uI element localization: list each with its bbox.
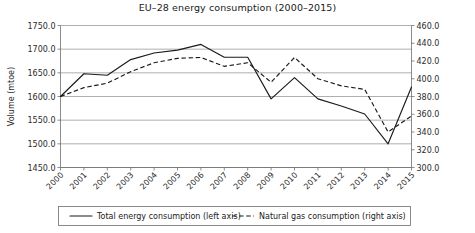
y-axis-left: 1450.01500.01550.01600.01650.01700.01750…: [28, 22, 61, 173]
y-axis-right-tick-label: 460.0: [417, 22, 440, 31]
y-axis-left-tick-label: 1600.0: [28, 93, 56, 102]
x-axis-tick-label: 2007: [208, 171, 229, 192]
x-axis-tick-label: 2009: [255, 171, 276, 192]
gridlines: [61, 26, 412, 168]
x-axis-tick-label: 2000: [45, 171, 66, 192]
y-axis-right-tick-label: 400.0: [417, 75, 440, 84]
series-line-2: [61, 57, 412, 132]
x-axis-tick-label: 2008: [232, 171, 253, 192]
x-axis-tick-label: 2004: [138, 171, 159, 192]
x-axis-tick-label: 2010: [279, 171, 300, 192]
chart-legend: Total energy consumption (left axis)Natu…: [59, 207, 411, 226]
data-series: [61, 44, 412, 143]
x-axis-tick-label: 2015: [396, 171, 417, 192]
chart-plot-area: 1450.01500.01550.01600.01650.01700.01750…: [0, 0, 475, 233]
y-axis-right: 300.0320.0340.0360.0380.0400.0420.0440.0…: [412, 22, 440, 173]
y-axis-right-tick-label: 340.0: [417, 128, 440, 137]
y-axis-left-tick-label: 1750.0: [28, 22, 56, 31]
y-axis-left-tick-label: 1650.0: [28, 69, 56, 78]
x-axis-tick-label: 2002: [91, 171, 112, 192]
y-axis-title-label: Volume (mtoe): [7, 67, 16, 126]
chart-container: EU–28 energy consumption (2000–2015) 145…: [0, 0, 475, 233]
y-axis-right-tick-label: 360.0: [417, 110, 440, 119]
y-axis-left-tick-label: 1450.0: [28, 164, 56, 173]
x-axis-tick-label: 2013: [349, 171, 370, 192]
y-axis-left-tick-label: 1700.0: [28, 45, 56, 54]
x-axis-tick-label: 2011: [302, 171, 323, 192]
x-axis: 2000200120022003200420052006200720082009…: [45, 168, 417, 192]
x-axis-tick-label: 2006: [185, 171, 206, 192]
x-axis-tick-label: 2014: [372, 171, 393, 192]
x-axis-tick-label: 2003: [115, 171, 136, 192]
y-axis-title: Volume (mtoe): [7, 67, 16, 126]
x-axis-tick-label: 2001: [68, 171, 89, 192]
y-axis-right-tick-label: 440.0: [417, 39, 440, 48]
x-axis-tick-label: 2012: [325, 171, 346, 192]
y-axis-right-tick-label: 320.0: [417, 146, 440, 155]
y-axis-right-tick-label: 300.0: [417, 164, 440, 173]
y-axis-left-tick-label: 1500.0: [28, 140, 56, 149]
legend-label-1: Total energy consumption (left axis): [96, 212, 241, 221]
y-axis-left-tick-label: 1550.0: [28, 116, 56, 125]
legend-label-2: Natural gas consumption (right axis): [259, 212, 406, 221]
y-axis-right-tick-label: 420.0: [417, 57, 440, 66]
x-axis-tick-label: 2005: [162, 171, 183, 192]
y-axis-right-tick-label: 380.0: [417, 93, 440, 102]
series-line-1: [61, 44, 412, 143]
